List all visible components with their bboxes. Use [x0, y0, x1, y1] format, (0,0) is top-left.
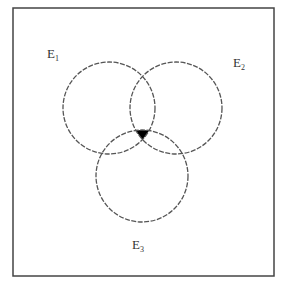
- label-e2: E2: [233, 55, 245, 72]
- circle-e2: [130, 62, 222, 154]
- label-e3: E3: [132, 237, 144, 254]
- label-e1: E1: [47, 46, 59, 63]
- circle-e1: [63, 62, 155, 154]
- circle-e3: [96, 130, 188, 222]
- venn-diagram: E1 E2 E3: [0, 0, 284, 288]
